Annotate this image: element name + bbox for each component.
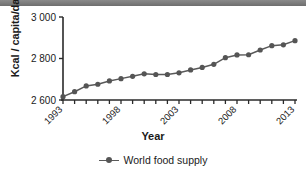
y-tick-label: 2 600 (31, 95, 56, 106)
data-point (107, 78, 112, 83)
data-point (200, 65, 205, 70)
data-point (258, 47, 263, 52)
x-axis-title: Year (0, 130, 306, 142)
x-tick-label: 1998 (100, 104, 123, 127)
x-tick-label: 2013 (274, 104, 297, 127)
data-point (153, 72, 158, 77)
chart-legend: World food supply (0, 154, 306, 166)
data-point (292, 38, 297, 43)
line-chart-svg: 2 6002 8003 00019931998200320082013 (0, 6, 306, 136)
data-point (142, 71, 147, 76)
data-point (269, 43, 274, 48)
x-tick-label: 2003 (158, 104, 181, 127)
data-point (84, 83, 89, 88)
y-tick-label: 3 000 (31, 12, 56, 23)
data-point (72, 89, 77, 94)
data-point (176, 70, 181, 75)
x-tick-label: 2008 (216, 104, 239, 127)
x-tick-label: 1993 (42, 104, 65, 127)
data-point (60, 94, 65, 99)
data-point (118, 76, 123, 81)
legend-label-world-food-supply: World food supply (124, 154, 208, 166)
data-point (95, 82, 100, 87)
chart-area: Kcal / capita/day 2 6002 8003 0001993199… (0, 6, 306, 173)
data-point (281, 42, 286, 47)
data-point (211, 62, 216, 67)
legend-line-marker-icon (99, 155, 119, 165)
data-point (188, 67, 193, 72)
y-tick-label: 2 800 (31, 53, 56, 64)
data-point (246, 52, 251, 57)
data-point (223, 55, 228, 60)
data-point (130, 74, 135, 79)
data-point (165, 72, 170, 77)
chart-screenshot: Kcal / capita/day 2 6002 8003 0001993199… (0, 0, 306, 173)
data-point (234, 52, 239, 57)
